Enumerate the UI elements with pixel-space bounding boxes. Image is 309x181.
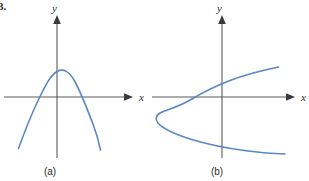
panel-b-y-axis-label: y: [216, 2, 222, 14]
panel-a-x-axis-label: x: [138, 91, 144, 103]
panel-b-y-axis-arrow: [218, 15, 226, 24]
panel-b-x-axis-arrow: [286, 93, 295, 101]
panel-b-curve: [156, 67, 285, 154]
panel-a-y-axis-label: y: [51, 2, 57, 14]
figure-container: 3. x y (a): [0, 0, 309, 181]
panel-a: x y (a): [4, 2, 144, 177]
panel-b: x y (b): [152, 2, 306, 177]
panel-a-curve: [19, 70, 101, 150]
panel-a-x-axis-arrow: [124, 93, 133, 101]
panel-a-y-axis-arrow: [53, 15, 61, 24]
panel-a-caption: (a): [44, 166, 56, 177]
figure-svg: x y (a) x y (b): [0, 0, 309, 181]
panel-b-caption: (b): [211, 166, 223, 177]
panel-b-x-axis-label: x: [300, 91, 306, 103]
